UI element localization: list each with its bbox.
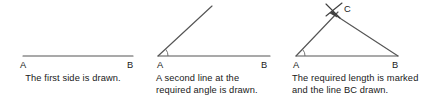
vertex-label-C: C [344,4,351,14]
construction-step-3: A B C The required length is markedand t… [288,0,437,110]
step-1-caption: The first side is drawn. [0,73,146,85]
vertex-label-B: B [127,60,133,70]
figure-step-3 [288,0,437,72]
step-3-caption-line-1: The required length is marked [292,73,418,83]
step-2-caption: A second line at therequired angle is dr… [146,73,288,96]
step-2-caption-line-2: required angle is drawn. [156,85,258,95]
segment-side-BC [332,13,398,56]
step-3-caption-line-2: and the line BC drawn. [292,85,388,95]
step-2-caption-line-1: A second line at the [156,73,239,83]
vertex-label-A: A [157,60,163,70]
diagram-canvas: A B The first side is drawn. A B A secon… [0,0,437,110]
construction-step-2: A B A second line at therequired angle i… [146,0,288,110]
vertex-label-B: B [261,60,267,70]
vertex-label-B: B [392,60,398,70]
vertex-label-A: A [293,60,299,70]
segment-side-AC [296,12,338,56]
segment-ray-from-A [158,6,212,56]
step-3-caption: The required length is markedand the lin… [288,73,437,96]
construction-step-1: A B The first side is drawn. [0,0,146,110]
angle-arc-at-A [166,49,168,56]
step-1-caption-line-1: The first side is drawn. [25,73,120,83]
vertex-label-A: A [20,60,26,70]
angle-arc-at-A [303,50,305,56]
